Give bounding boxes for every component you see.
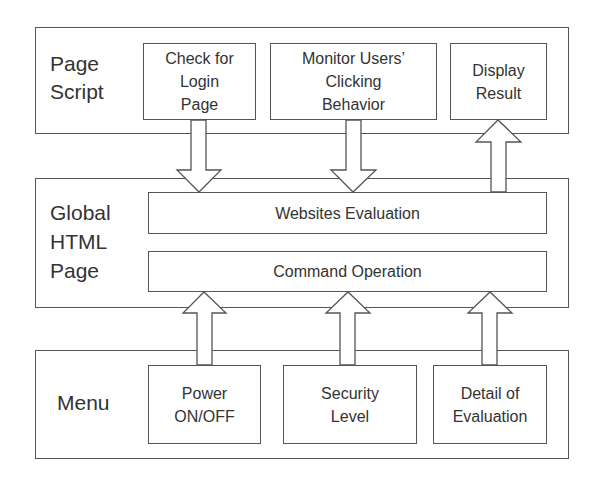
check-login-page-box: Check for Login Page [143,43,256,120]
command-operation-bar: Command Operation [148,251,547,292]
websites-evaluation-bar: Websites Evaluation [148,192,547,234]
detail-of-evaluation-box: Detail of Evaluation [433,365,547,444]
global-html-page-label: Global HTML Page [50,198,111,285]
page-script-label: Page Script [50,50,104,106]
menu-label: Menu [57,389,110,417]
power-on-off-box: Power ON/OFF [148,365,261,444]
security-level-box: Security Level [283,365,417,444]
monitor-clicking-behavior-box: Monitor Users’ Clicking Behavior [270,43,437,120]
display-result-box: Display Result [450,43,547,120]
